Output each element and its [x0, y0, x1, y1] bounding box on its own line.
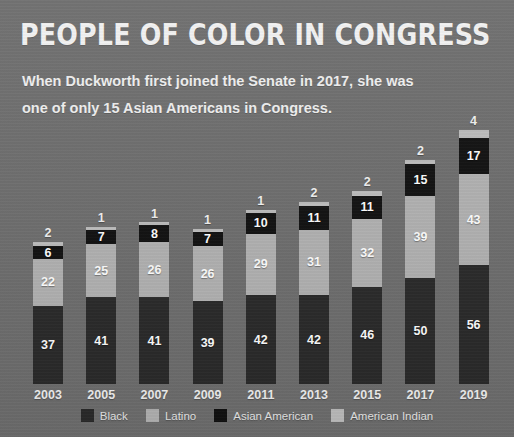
bar-segment-asian-american: 10: [246, 213, 276, 234]
segment-value: 22: [41, 275, 55, 289]
segment-value: 41: [147, 334, 161, 348]
segment-value: 31: [307, 255, 321, 269]
legend-label: American Indian: [350, 410, 433, 422]
x-axis-label-2019: 2019: [452, 388, 496, 402]
segment-value: 11: [307, 211, 320, 225]
legend-item-latino[interactable]: Latino: [146, 409, 196, 422]
segment-value: 26: [147, 263, 161, 277]
bar-segment-latino: 26: [139, 242, 169, 297]
legend-item-black[interactable]: Black: [81, 409, 128, 422]
segment-value-outside: 1: [246, 194, 276, 208]
bar-segment-black: 41: [139, 297, 169, 384]
infographic-root: PEOPLE OF COLOR IN CONGRESS When Duckwor…: [0, 0, 514, 437]
bar-segment-asian-american: 17: [459, 138, 489, 174]
stacked-bar-chart: 2262237117254111826411172639111029422211…: [0, 108, 514, 384]
bar-segment-latino: 29: [246, 234, 276, 295]
segment-value: 6: [45, 246, 52, 260]
legend-item-american-indian[interactable]: American Indian: [331, 409, 433, 422]
x-axis-label-2013: 2013: [292, 388, 336, 402]
bar-segment-asian-american: 11: [352, 196, 382, 219]
segment-value-outside: 2: [405, 144, 435, 158]
x-axis-label-2007: 2007: [132, 388, 176, 402]
legend-swatch-icon: [146, 409, 159, 422]
segment-value-outside: 1: [139, 207, 169, 221]
bar-segment-latino: 22: [33, 259, 63, 306]
bar-segment-asian-american: 6: [33, 246, 63, 259]
x-axis-label-2005: 2005: [79, 388, 123, 402]
segment-value: 29: [254, 257, 268, 271]
bar-group: 44174356: [459, 130, 489, 384]
segment-value-outside: 2: [299, 186, 329, 200]
bar-group: 1172639: [193, 229, 223, 384]
segment-value-outside: 4: [459, 114, 489, 128]
segment-value-outside: 1: [193, 213, 223, 227]
bar-segment-black: 37: [33, 306, 63, 384]
segment-value: 7: [98, 230, 105, 244]
legend-swatch-icon: [214, 409, 227, 422]
segment-value: 46: [360, 328, 374, 342]
bar-segment-black: 46: [352, 287, 382, 384]
x-axis-label-2015: 2015: [345, 388, 389, 402]
segment-value: 41: [94, 334, 108, 348]
bar-segment-black: 39: [193, 301, 223, 384]
segment-value: 7: [204, 232, 211, 246]
segment-value-outside: 1: [86, 211, 116, 225]
x-axis: 200320052007200920112013201520172019: [0, 388, 514, 404]
x-axis-label-2017: 2017: [398, 388, 442, 402]
bar-group: 22153950: [405, 160, 435, 384]
segment-value: 39: [201, 336, 215, 350]
segment-value: 42: [307, 333, 321, 347]
bar-segment-american-indian: 4: [459, 130, 489, 138]
bar-group: 2262237: [33, 242, 63, 384]
bar-segment-asian-american: 7: [86, 230, 116, 245]
segment-value: 15: [413, 173, 427, 187]
bar-segment-asian-american: 7: [193, 232, 223, 247]
segment-value: 8: [151, 227, 158, 241]
bar-segment-black: 42: [246, 295, 276, 384]
segment-value: 11: [361, 200, 374, 214]
chart-legend: BlackLatinoAsian AmericanAmerican Indian: [0, 409, 514, 422]
legend-swatch-icon: [331, 409, 344, 422]
bar-segment-latino: 39: [405, 196, 435, 279]
bar-group: 1182641: [139, 222, 169, 384]
bar-segment-black: 41: [86, 297, 116, 384]
title-row: PEOPLE OF COLOR IN CONGRESS: [20, 19, 500, 51]
bar-segment-asian-american: 8: [139, 225, 169, 242]
bar-segment-latino: 43: [459, 174, 489, 265]
segment-value: 32: [360, 246, 374, 260]
x-axis-label-2009: 2009: [186, 388, 230, 402]
segment-value: 42: [254, 333, 268, 347]
segment-value: 50: [413, 324, 427, 338]
x-axis-label-2003: 2003: [26, 388, 70, 402]
legend-label: Latino: [165, 410, 196, 422]
segment-value: 26: [201, 267, 215, 281]
bar-segment-black: 56: [459, 265, 489, 384]
bar-segment-latino: 25: [86, 244, 116, 297]
segment-value-outside: 2: [352, 175, 382, 189]
segment-value: 17: [467, 149, 481, 163]
legend-label: Asian American: [233, 410, 313, 422]
legend-label: Black: [100, 410, 128, 422]
bar-segment-latino: 26: [193, 246, 223, 301]
segment-value: 37: [41, 338, 55, 352]
legend-swatch-icon: [81, 409, 94, 422]
bar-group: 11102942: [246, 210, 276, 384]
segment-value: 43: [467, 213, 481, 227]
bar-segment-black: 42: [299, 295, 329, 384]
bar-segment-latino: 32: [352, 219, 382, 287]
segment-value: 39: [413, 230, 427, 244]
bar-segment-black: 50: [405, 278, 435, 384]
bar-segment-latino: 31: [299, 230, 329, 296]
segment-value-outside: 2: [33, 226, 63, 240]
segment-value: 25: [94, 264, 108, 278]
bar-segment-asian-american: 15: [405, 164, 435, 196]
bar-group: 22113142: [299, 202, 329, 384]
segment-value: 56: [467, 318, 481, 332]
x-axis-label-2011: 2011: [239, 388, 283, 402]
bar-group: 1172541: [86, 227, 116, 385]
legend-item-asian-american[interactable]: Asian American: [214, 409, 313, 422]
page-title: PEOPLE OF COLOR IN CONGRESS: [20, 19, 490, 51]
bar-group: 22113246: [352, 191, 382, 384]
bar-segment-asian-american: 11: [299, 206, 329, 229]
segment-value: 10: [254, 216, 268, 230]
